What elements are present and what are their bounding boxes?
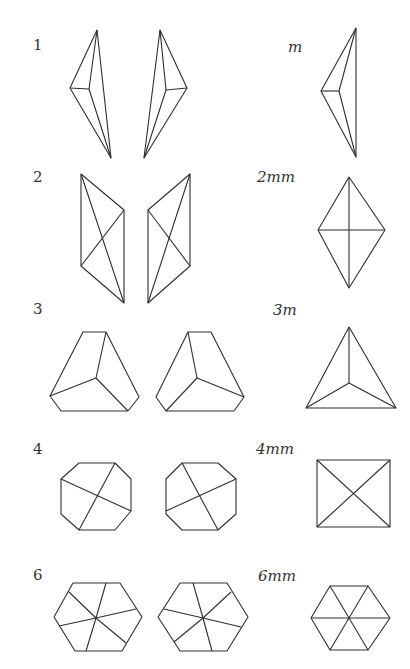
shape-4-left [61,463,131,530]
shape-6-right [158,583,248,651]
shape-6-left [54,583,142,651]
shape-3-right [156,332,244,411]
shape-2-left [81,174,124,303]
shape-4-right [166,463,236,530]
shape-3m [306,327,396,408]
shape-4mm [317,460,390,527]
shape-6mm [311,586,390,650]
shape-2-right [148,174,190,303]
crystal-symmetry-diagram [0,0,410,669]
shape-m [321,28,356,157]
shape-3-left [50,332,139,411]
shape-1-left [70,30,111,158]
shape-1-right [144,30,187,158]
shape-2mm [318,177,385,288]
